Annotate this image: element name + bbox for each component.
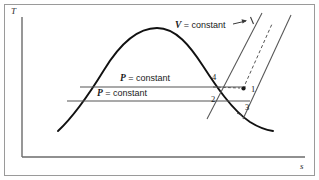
ts-diagram-svg [0, 0, 319, 180]
v-constant-label: V = constant [175, 21, 226, 31]
p-constant-lower-label: P = constant [97, 89, 147, 99]
figure-container: T s V = constant P = constant P = consta… [0, 0, 319, 180]
p-constant-upper-label: P = constant [120, 74, 170, 84]
state-point-1-label: 1 [251, 85, 255, 94]
entropy-axis-label: s [300, 162, 304, 171]
state-point-2-label: 2 [211, 95, 215, 104]
v-constant-text: = constant [181, 20, 225, 30]
state-point-3-label: 3 [245, 103, 249, 112]
p-constant-lower-text: = constant [103, 88, 147, 98]
temperature-axis-label: T [11, 7, 16, 16]
p-constant-upper-text: = constant [126, 73, 170, 83]
state-point-1-marker [241, 86, 245, 90]
figure-frame [5, 5, 315, 176]
state-point-4-label: 4 [212, 73, 216, 82]
